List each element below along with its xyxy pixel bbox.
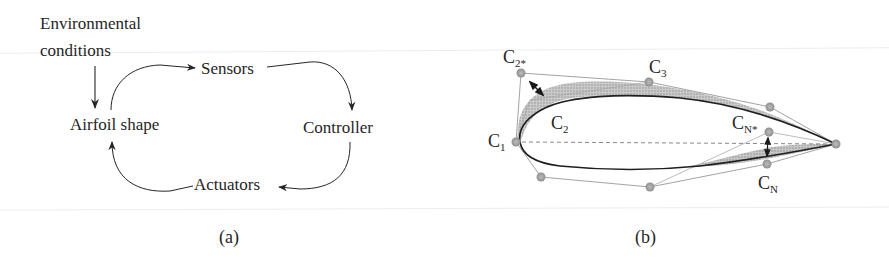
figure: Environmental conditions Airfoil shape S…	[0, 0, 889, 259]
control-point-c1	[512, 138, 521, 147]
control-point-cn-star	[765, 128, 774, 137]
label-c2-star: C2*	[503, 48, 526, 69]
chord-line	[522, 142, 836, 144]
label-cn-star: CN*	[732, 114, 757, 135]
label-c1: C1	[488, 132, 506, 153]
label-c3: C3	[649, 58, 667, 79]
deformation-arrow-upper	[530, 82, 543, 95]
control-point-lower-fore	[537, 173, 546, 182]
control-point-c2-star	[517, 69, 526, 78]
label-c2: C2	[551, 114, 569, 135]
panel-b-caption: (b)	[635, 228, 656, 246]
control-point-upper-aft	[766, 103, 775, 112]
control-point-cn	[763, 160, 772, 169]
control-point-trailing-edge	[832, 140, 841, 149]
control-point-lower-mid	[646, 183, 655, 192]
label-cn: CN	[758, 174, 778, 195]
